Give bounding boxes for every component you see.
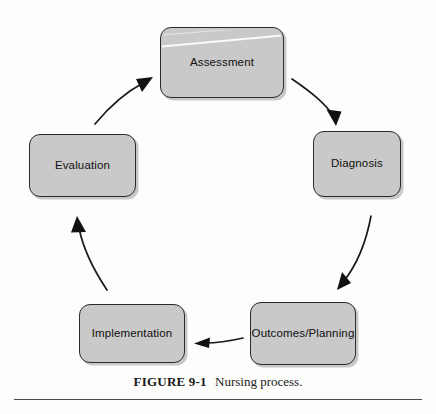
arrow-evaluation-to-assessment (95, 77, 153, 124)
process-node-label: Outcomes/Planning (252, 328, 355, 340)
figure-caption-title: Nursing process. (215, 374, 302, 389)
figure-caption: FIGURE 9-1 Nursing process. (0, 374, 436, 390)
process-node-label: Assessment (190, 57, 254, 69)
process-node-diagnosis[interactable]: Diagnosis (313, 131, 401, 197)
arrow-assessment-to-diagnosis (292, 79, 342, 126)
process-node-implementation[interactable]: Implementation (79, 304, 185, 363)
caption-divider-rule (14, 399, 422, 400)
figure-number: FIGURE 9-1 (134, 374, 207, 389)
process-node-label: Diagnosis (331, 158, 383, 170)
process-node-evaluation[interactable]: Evaluation (29, 134, 136, 197)
arrow-diagnosis-to-outcomes (337, 216, 371, 290)
process-node-outcomes-planning[interactable]: Outcomes/Planning (250, 302, 356, 365)
arrow-outcomes-to-implementation (194, 338, 243, 349)
arrow-implementation-to-evaluation (71, 216, 107, 290)
process-node-label: Implementation (92, 328, 173, 340)
figure-container: Assessment Diagnosis Outcomes/Planning I… (0, 0, 436, 414)
process-node-label: Evaluation (55, 160, 110, 172)
process-node-assessment[interactable]: Assessment (160, 27, 284, 98)
